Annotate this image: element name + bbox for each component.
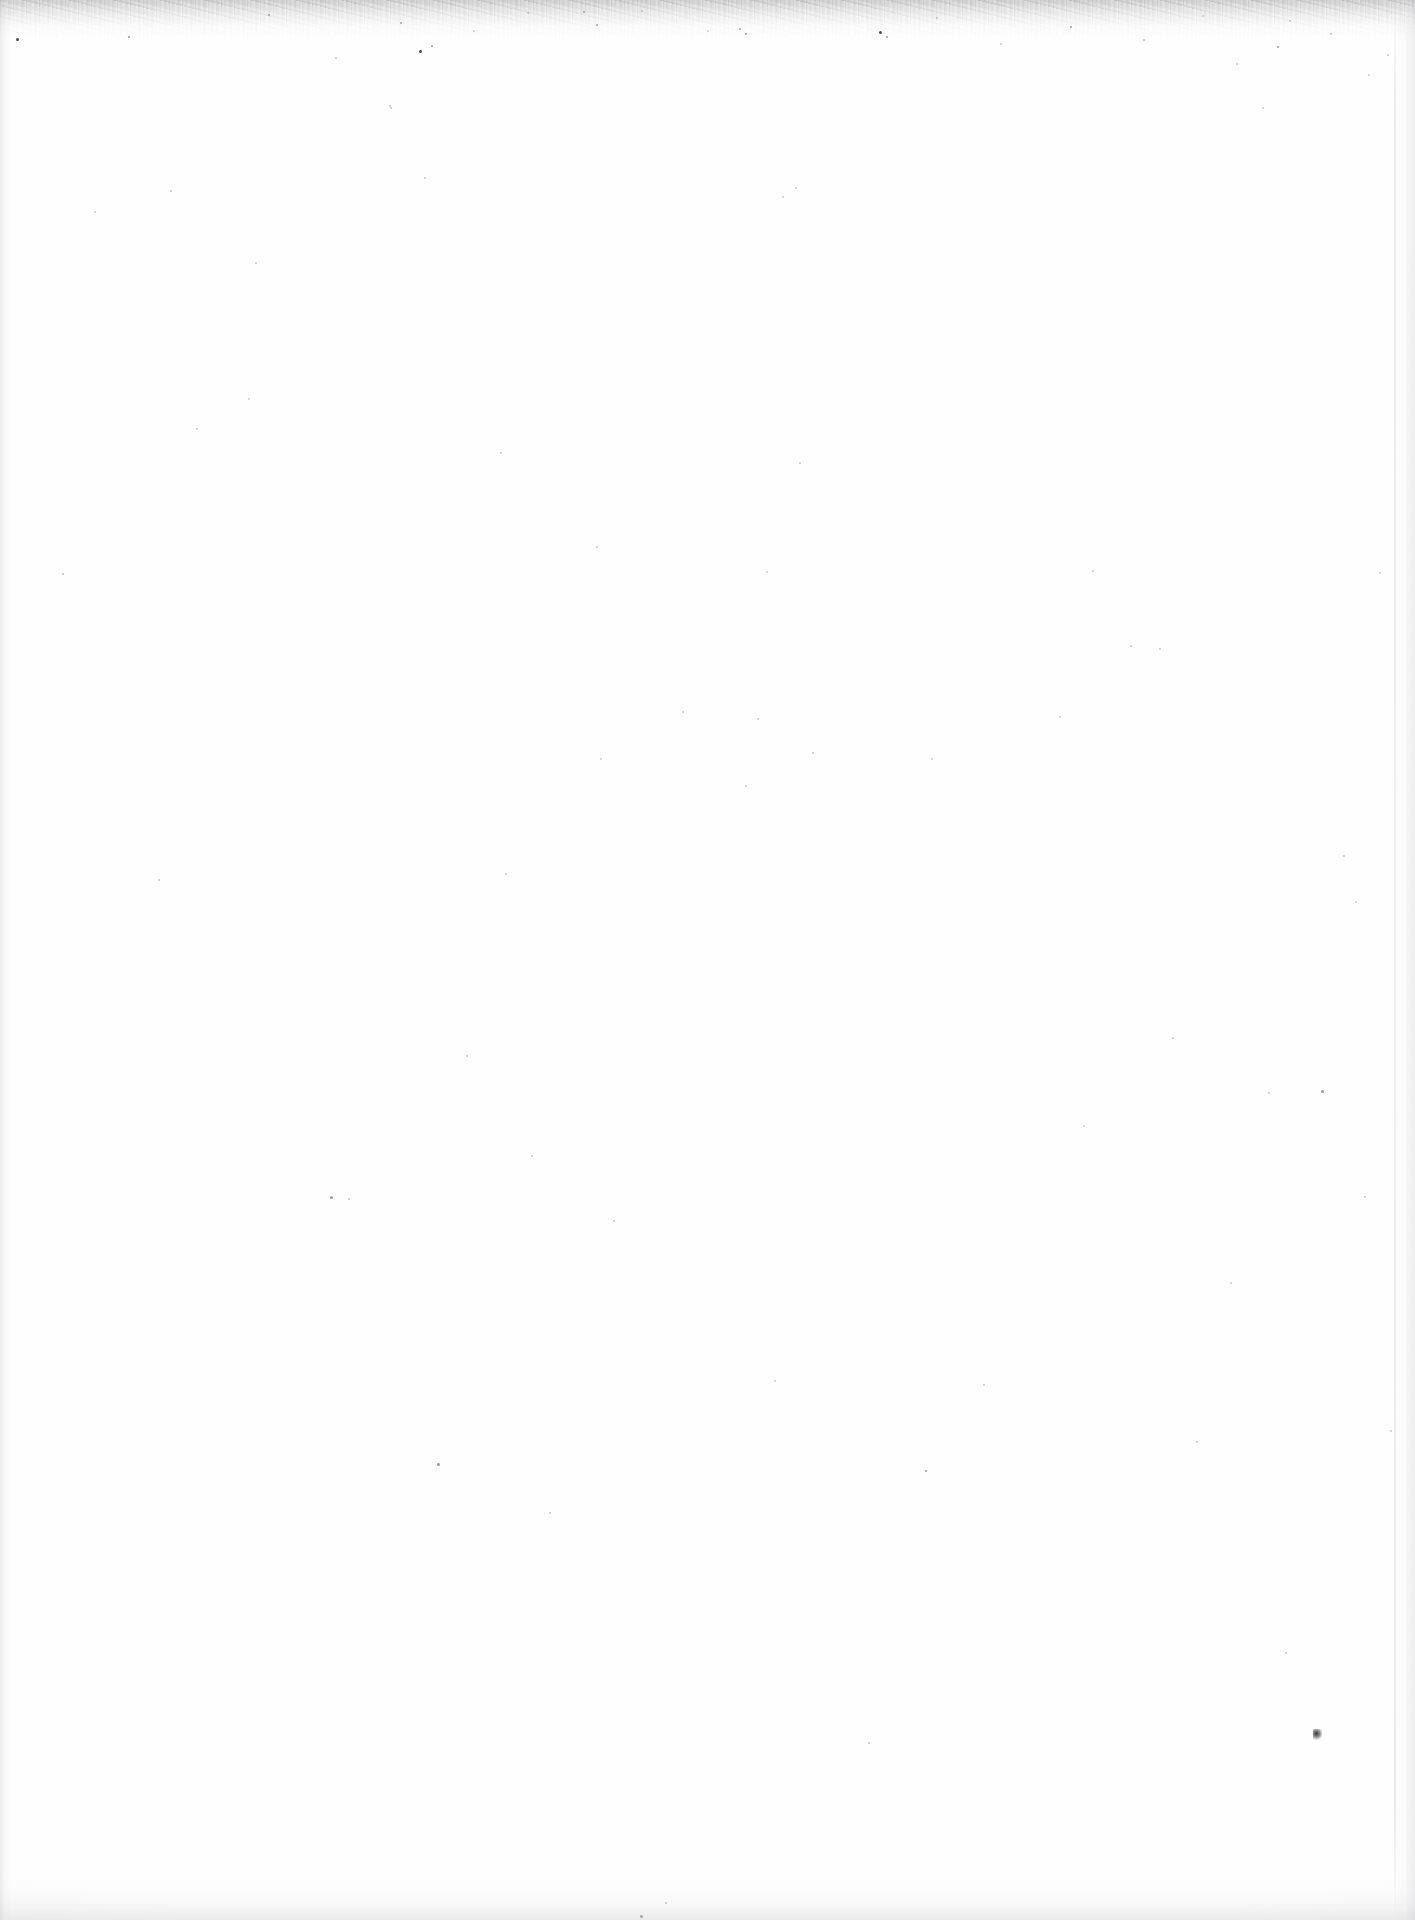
scanned-page xyxy=(0,0,1415,1920)
page-content-area xyxy=(140,150,1265,1760)
